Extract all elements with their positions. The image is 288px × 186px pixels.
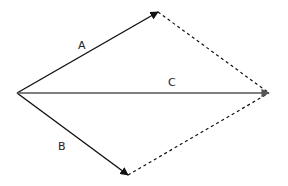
vector-a [17,12,158,93]
vector-b [17,93,128,175]
label-a: A [78,39,86,52]
label-c: C [168,76,176,89]
dashed-line-b-to-c [128,93,269,175]
vector-diagram: A B C [0,0,288,186]
label-b: B [58,140,66,153]
